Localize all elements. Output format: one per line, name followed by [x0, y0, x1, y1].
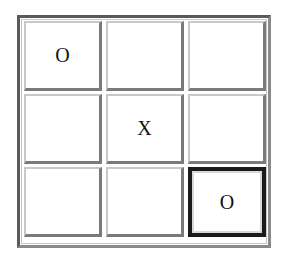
cell-2-1[interactable] [106, 167, 184, 237]
cell-0-0[interactable]: O [24, 21, 102, 91]
cell-0-2[interactable] [188, 21, 266, 91]
cell-1-0[interactable] [24, 94, 102, 164]
cell-0-1[interactable] [106, 21, 184, 91]
cell-1-2[interactable] [188, 94, 266, 164]
cell-2-0[interactable] [24, 167, 102, 237]
cell-1-1[interactable]: X [106, 94, 184, 164]
cell-2-2[interactable]: O [188, 167, 266, 237]
